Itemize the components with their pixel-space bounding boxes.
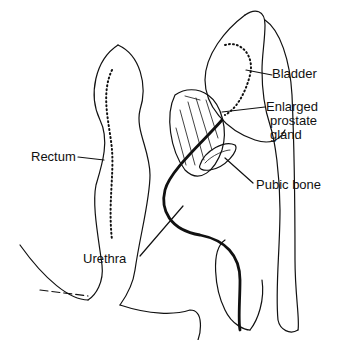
label-bladder: Bladder — [272, 67, 317, 81]
label-enlarged-prostate-1: Enlarged — [266, 100, 318, 114]
label-pubic-bone: Pubic bone — [256, 178, 321, 192]
label-enlarged-prostate-3: gland — [270, 128, 302, 142]
bladder-shape — [205, 11, 298, 332]
rectum-shape — [20, 45, 150, 305]
label-urethra: Urethra — [83, 252, 126, 266]
label-enlarged-prostate-2: prostate — [270, 114, 317, 128]
rectum-leader — [78, 157, 104, 160]
prostate-gland-shape — [170, 90, 225, 176]
pubic-bone-shape — [200, 144, 236, 171]
prostate-leader — [222, 107, 265, 112]
urethra-leader — [140, 206, 183, 256]
label-rectum: Rectum — [31, 150, 76, 164]
prostate-anatomy-diagram — [0, 0, 349, 340]
pubic-bone-leader — [225, 158, 253, 183]
